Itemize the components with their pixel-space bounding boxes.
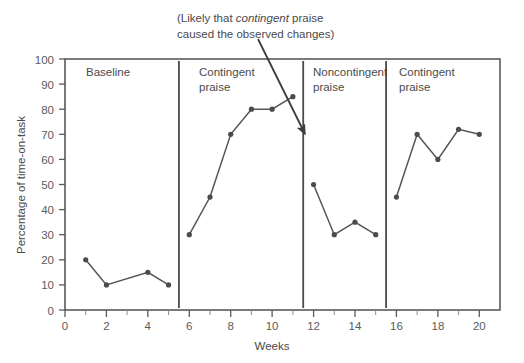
x-tick-label: 0	[62, 320, 68, 332]
data-point	[145, 270, 150, 275]
line-chart-svg: 100 90 80 70 60 50 40 30 20 10 0 Percent…	[0, 0, 524, 363]
x-tick-label: 12	[307, 320, 320, 332]
data-point	[290, 94, 295, 99]
data-point	[477, 132, 482, 137]
x-tick-label: 6	[186, 320, 192, 332]
x-tick-label: 4	[145, 320, 152, 332]
x-tick-label: 14	[349, 320, 362, 332]
y-tick-label: 80	[41, 104, 54, 116]
data-point	[415, 132, 420, 137]
y-tick-label: 0	[48, 305, 54, 317]
y-tick-label: 20	[41, 254, 54, 266]
data-point	[435, 157, 440, 162]
data-point	[249, 107, 254, 112]
data-point	[104, 282, 109, 287]
phase-label-line: praise	[313, 81, 344, 93]
x-axis-title: Weeks	[255, 340, 290, 352]
data-point	[83, 257, 88, 262]
chart-figure: 100 90 80 70 60 50 40 30 20 10 0 Percent…	[0, 0, 524, 363]
y-axis-ticks	[59, 59, 65, 310]
phase-label-line: Contingent	[399, 66, 455, 78]
phase-label-baseline: Baseline	[86, 66, 130, 78]
data-point	[270, 107, 275, 112]
y-tick-label: 90	[41, 79, 54, 91]
y-tick-label: 50	[41, 179, 54, 191]
x-tick-label: 8	[227, 320, 233, 332]
x-axis-tick-labels: 0 2 4 6 8 10 12 14 16 18 20	[62, 320, 486, 332]
data-point	[166, 282, 171, 287]
plot-frame	[65, 59, 500, 310]
y-tick-label: 30	[41, 229, 54, 241]
data-point	[373, 232, 378, 237]
x-tick-label: 2	[103, 320, 109, 332]
y-tick-label: 60	[41, 154, 54, 166]
x-tick-label: 20	[473, 320, 486, 332]
annotation-line-1: (Likely that contingent praise	[177, 12, 323, 24]
x-tick-label: 10	[266, 320, 279, 332]
phase-label-line: Baseline	[86, 66, 130, 78]
phase-label-line: praise	[199, 81, 230, 93]
phase-label-line: praise	[399, 81, 430, 93]
data-point	[187, 232, 192, 237]
data-point	[394, 194, 399, 199]
y-tick-label: 10	[41, 279, 54, 291]
y-axis-tick-labels: 100 90 80 70 60 50 40 30 20 10 0	[35, 54, 54, 317]
x-tick-label: 16	[390, 320, 403, 332]
y-tick-label: 40	[41, 204, 54, 216]
x-tick-label: 18	[432, 320, 445, 332]
data-point	[311, 182, 316, 187]
phase-label-line: Contingent	[199, 66, 255, 78]
data-point	[207, 194, 212, 199]
phase-label-line: Noncontingent	[313, 66, 388, 78]
y-axis-title: Percentage of time-on-task	[15, 116, 27, 254]
data-point	[352, 220, 357, 225]
y-tick-label: 100	[35, 54, 54, 66]
data-point	[456, 127, 461, 132]
data-point	[332, 232, 337, 237]
y-tick-label: 70	[41, 129, 54, 141]
data-point	[228, 132, 233, 137]
annotation-line-2: caused the observed changes)	[177, 28, 334, 40]
